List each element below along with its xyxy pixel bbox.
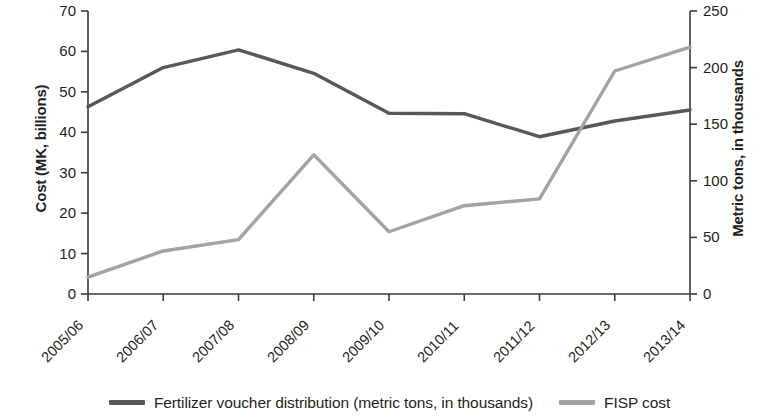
chart-figure: Cost (MK, billions) Metric tons, in thou… (0, 0, 779, 419)
plot-area (0, 0, 779, 419)
axis-lines (81, 11, 697, 301)
legend-swatch-icon (559, 400, 595, 405)
legend-item[interactable]: FISP cost (559, 394, 670, 412)
legend-swatch-icon (109, 400, 145, 405)
chart-legend: Fertilizer voucher distribution (metric … (0, 386, 779, 419)
legend-item[interactable]: Fertilizer voucher distribution (metric … (109, 394, 533, 412)
legend-label: FISP cost (604, 394, 670, 412)
series-line (88, 47, 690, 277)
legend-label: Fertilizer voucher distribution (metric … (154, 394, 533, 412)
series-lines (88, 47, 690, 277)
